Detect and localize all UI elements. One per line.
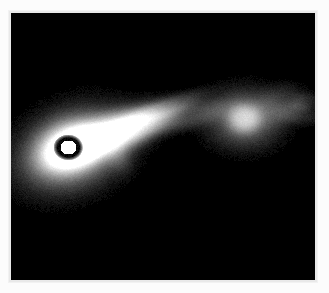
sky-intensity-canvas [11, 13, 315, 280]
figure-root [0, 0, 329, 293]
astronomical-image-plate [11, 13, 315, 280]
